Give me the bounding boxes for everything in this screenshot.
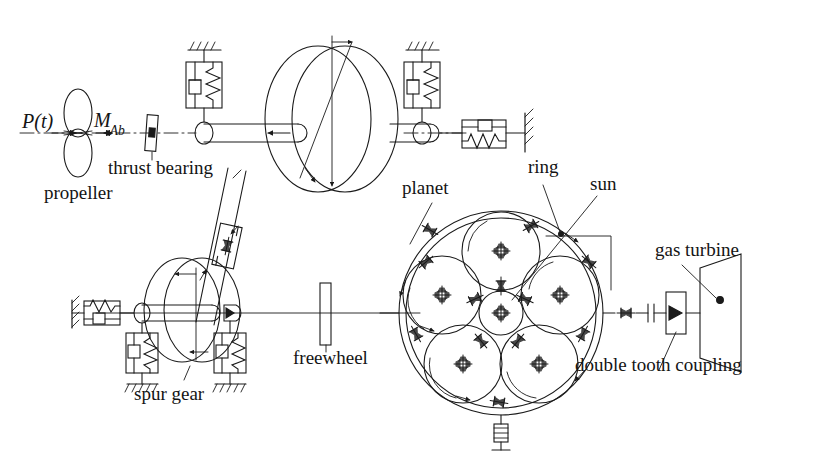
moment-subscript: Ab (110, 123, 125, 138)
planet-gear-2 (521, 256, 599, 334)
ring-label: ring (528, 157, 559, 176)
ring-ground-support (492, 415, 510, 450)
gas-turbine-label: gas turbine (655, 240, 739, 259)
planet-gear-4 (424, 325, 502, 403)
rotor-shaft-left (204, 124, 307, 142)
double-tooth-coupling-label: double tooth coupling (575, 355, 742, 374)
spring-damper-upper-right (404, 42, 440, 122)
axial-spring-damper-to-wall (440, 109, 533, 152)
rotor-rotation-indicator (300, 36, 352, 186)
diagram-canvas: P(t) MAb propeller thrust bearing planet… (0, 0, 828, 464)
drivetrain-schematic-svg (0, 0, 828, 464)
sun-label: sun (590, 174, 616, 193)
double-tooth-coupling-icon (666, 292, 700, 334)
moment-base: M (94, 109, 111, 131)
planet-label: planet (402, 178, 448, 197)
excitation-force-label: P(t) (22, 111, 53, 131)
moment-label: MAb (94, 110, 126, 135)
planet-gear-5 (403, 256, 481, 334)
spring-damper-upper-left (186, 42, 222, 122)
planetary-gear-set (399, 211, 611, 450)
ring-output-shaft (603, 304, 666, 322)
planet-gear-3 (500, 325, 578, 403)
freewheel-icon (320, 283, 331, 345)
lower-left-ground-spring (72, 296, 134, 328)
thrust-bearing-label: thrust bearing (108, 158, 213, 177)
sun-gear (479, 291, 523, 335)
freewheel-label: freewheel (293, 348, 368, 367)
bearing-lower-left (125, 303, 158, 392)
bearing-upper-left (195, 122, 213, 144)
spur-gear-label: spur gear (134, 384, 204, 403)
propeller-label: propeller (44, 183, 113, 202)
propeller-rotor-disc (265, 46, 398, 192)
diagonal-connecting-shaft (196, 168, 246, 325)
